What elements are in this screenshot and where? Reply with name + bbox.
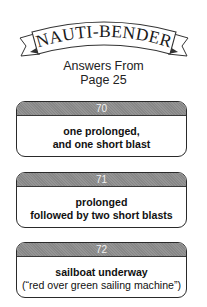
answer-number: 72 [17, 243, 186, 257]
answer-line-1: sailboat underway [17, 266, 186, 279]
answer-line-1: one prolonged, [17, 125, 186, 138]
subtitle-line-1: Answers From [0, 59, 207, 73]
answer-card: 72 sailboat underway (“red over green sa… [16, 242, 187, 298]
answer-card: 71 prolonged followed by two short blast… [16, 172, 187, 228]
subtitle-line-2: Page 25 [0, 73, 207, 87]
answer-card: 70 one prolonged, and one short blast [16, 101, 187, 157]
answer-line-2: and one short blast [17, 138, 186, 151]
answer-number: 70 [17, 102, 186, 116]
answer-number: 71 [17, 173, 186, 187]
answer-line-2: followed by two short blasts [17, 209, 186, 222]
banner-title: NAUTI-BENDER [34, 21, 175, 51]
answer-line-1: prolonged [17, 196, 186, 209]
answer-line-2: (“red over green sailing machine”) [17, 279, 186, 292]
